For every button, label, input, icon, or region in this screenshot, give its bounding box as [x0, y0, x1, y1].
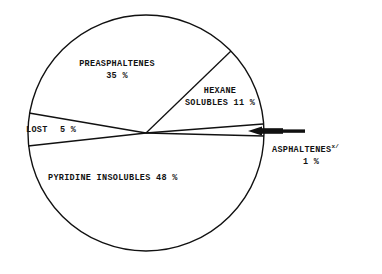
slice-label-lost: LOST 5 %	[26, 124, 76, 136]
slice-label-preasphaltenes-value: 35 %	[57, 70, 177, 82]
slice-label-lost-name: LOST	[26, 125, 48, 135]
slice-label-preasphaltenes-name: PREASPHALTENES	[79, 59, 155, 69]
slice-label-asphaltenes-name: ASPHALTENES	[272, 145, 331, 155]
slice-label-asphaltenes-footnote-marker: x/	[331, 143, 339, 150]
slice-label-hexane-name: HEXANE	[204, 86, 236, 96]
slice-label-pyridine-text: PYRIDINE INSOLUBLES 48 %	[48, 173, 178, 183]
slice-label-hexane-value: SOLUBLES 11 %	[168, 97, 272, 109]
slice-label-hexane-solubles: HEXANE SOLUBLES 11 %	[168, 85, 272, 109]
slice-label-preasphaltenes: PREASPHALTENES 35 %	[57, 58, 177, 82]
slice-label-pyridine-insolubles: PYRIDINE INSOLUBLES 48 %	[48, 172, 178, 184]
pie-chart-figure: PREASPHALTENES 35 % HEXANE SOLUBLES 11 %…	[0, 0, 382, 274]
slice-label-asphaltenes: ASPHALTENESx/ 1 %	[272, 141, 376, 168]
slice-label-lost-value: 5 %	[60, 125, 76, 135]
slice-label-asphaltenes-value: 1 %	[272, 156, 350, 168]
pie-chart-graphic	[0, 0, 382, 274]
